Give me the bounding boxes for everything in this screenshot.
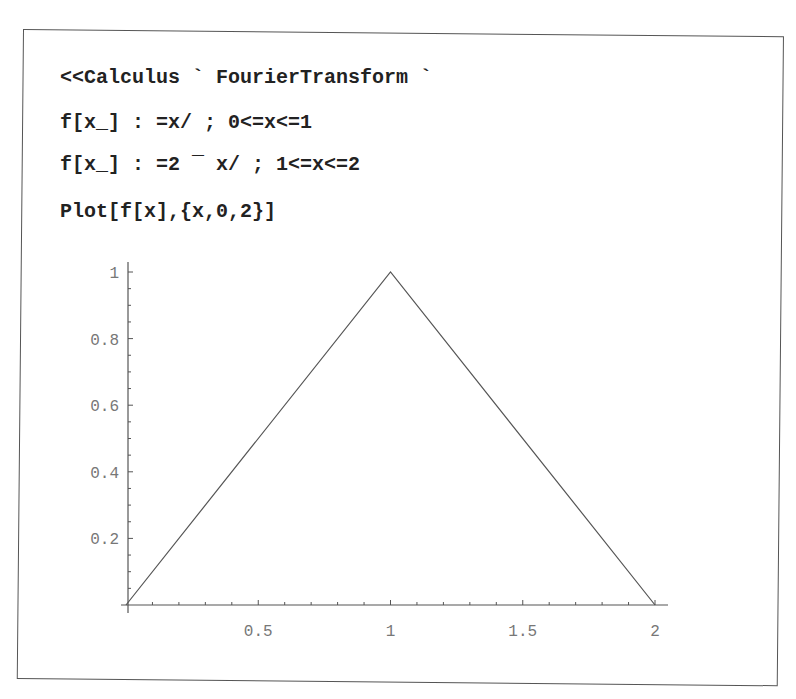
- y-tick-label: 0.2: [90, 531, 119, 549]
- plot-output: 0.511.520.20.40.60.81: [0, 0, 796, 699]
- plot-axes: [121, 262, 668, 613]
- y-tick-label: 0.6: [90, 398, 119, 416]
- y-tick-label: 1: [109, 265, 119, 283]
- axis-tick-labels: 0.511.520.20.40.60.81: [90, 265, 660, 641]
- axis-ticks: [128, 272, 655, 605]
- y-tick-label: 0.8: [90, 332, 119, 350]
- x-tick-label: 1.5: [508, 623, 537, 641]
- x-tick-label: 1: [386, 623, 396, 641]
- x-tick-label: 0.5: [244, 623, 273, 641]
- x-tick-label: 2: [650, 623, 660, 641]
- y-tick-label: 0.4: [90, 465, 119, 483]
- plot-curve-f: [126, 272, 655, 605]
